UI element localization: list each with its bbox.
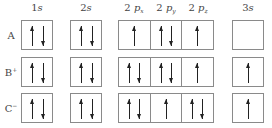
orbital-cell-2py: [150, 58, 182, 86]
spin-up-arrow-icon: [132, 26, 137, 46]
spin-down-arrow-icon: [169, 26, 174, 46]
header-1s-orbital: s: [38, 2, 43, 13]
header-3s: 3s: [232, 2, 264, 13]
row-a-3s-box: [232, 20, 264, 50]
spin-up-arrow-icon: [127, 99, 132, 119]
orbital-cell: [233, 94, 263, 122]
orbital-cell-2px: [119, 58, 150, 86]
spin-up-arrow-icon: [159, 63, 164, 83]
orbital-cell: [71, 21, 101, 49]
spin-down-arrow-icon: [90, 26, 95, 46]
row-a-symbol: A: [7, 30, 14, 41]
header-2pz-number: 2: [188, 2, 194, 13]
header-2pz: 2 pz: [182, 2, 214, 14]
orbital-cell-2px: [119, 94, 150, 122]
orbital-cell-empty: [233, 21, 263, 49]
row-label-b-plus: B+: [4, 66, 18, 78]
header-3s-orbital: s: [249, 2, 254, 13]
spin-down-arrow-icon: [137, 63, 142, 83]
orbital-cell: [22, 94, 52, 122]
spin-up-arrow-icon: [164, 99, 169, 119]
spin-down-arrow-icon: [41, 26, 46, 46]
spin-up-arrow-icon: [246, 63, 251, 83]
spin-down-arrow-icon: [90, 63, 95, 83]
spin-down-arrow-icon: [200, 99, 205, 119]
spin-up-arrow-icon: [127, 63, 132, 83]
orbital-cell-2py: [150, 94, 182, 122]
orbital-cell: [233, 58, 263, 86]
row-c-charge: −: [12, 102, 17, 109]
orbital-cell-2pz: [181, 58, 213, 86]
header-2s-orbital: s: [87, 2, 92, 13]
spin-down-arrow-icon: [41, 63, 46, 83]
row-c-2p-box: [118, 93, 214, 123]
row-a-2p-box: [118, 20, 214, 50]
row-b-1s-box: [21, 57, 53, 87]
header-1s: 1s: [21, 2, 53, 13]
row-b-2s-box: [70, 57, 102, 87]
header-2pz-subscript: z: [204, 7, 207, 14]
orbital-cell: [22, 58, 52, 86]
spin-up-arrow-icon: [190, 99, 195, 119]
row-b-2p-box: [118, 57, 214, 87]
orbital-cell-2pz: [181, 21, 213, 49]
orbital-cell: [71, 94, 101, 122]
orbital-cell: [22, 21, 52, 49]
spin-up-arrow-icon: [79, 26, 84, 46]
spin-down-arrow-icon: [41, 99, 46, 119]
header-2py-subscript: y: [172, 7, 175, 14]
row-label-a: A: [4, 29, 18, 41]
spin-up-arrow-icon: [159, 26, 164, 46]
orbital-cell-2px: [119, 21, 150, 49]
header-2py-number: 2: [156, 2, 162, 13]
spin-up-arrow-icon: [79, 99, 84, 119]
row-a-1s-box: [21, 20, 53, 50]
orbital-cell-2py: [150, 21, 182, 49]
header-2py: 2 py: [150, 2, 182, 14]
row-b-charge: +: [12, 66, 17, 73]
row-c-2s-box: [70, 93, 102, 123]
spin-up-arrow-icon: [79, 63, 84, 83]
orbital-cell-2pz: [181, 94, 213, 122]
row-b-3s-box: [232, 57, 264, 87]
spin-down-arrow-icon: [169, 63, 174, 83]
spin-up-arrow-icon: [30, 26, 35, 46]
row-c-1s-box: [21, 93, 53, 123]
spin-up-arrow-icon: [30, 63, 35, 83]
row-a-2s-box: [70, 20, 102, 50]
spin-up-arrow-icon: [195, 26, 200, 46]
header-2s: 2s: [70, 2, 102, 13]
header-2px: 2 px: [118, 2, 150, 14]
spin-up-arrow-icon: [246, 99, 251, 119]
orbital-cell: [71, 58, 101, 86]
spin-up-arrow-icon: [30, 99, 35, 119]
header-2px-number: 2: [124, 2, 130, 13]
row-label-c-minus: C−: [4, 102, 18, 114]
row-c-3s-box: [232, 93, 264, 123]
spin-up-arrow-icon: [195, 63, 200, 83]
header-2px-subscript: x: [140, 7, 143, 14]
spin-down-arrow-icon: [90, 99, 95, 119]
spin-down-arrow-icon: [137, 99, 142, 119]
